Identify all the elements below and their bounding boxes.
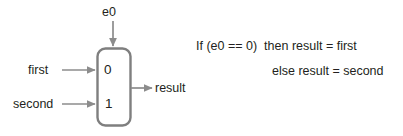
expression-line-else: else result = second	[272, 65, 384, 78]
mux-box	[98, 49, 131, 126]
output-label-result: result	[155, 82, 186, 95]
mux-port-digit-zero: 0	[104, 63, 112, 77]
diagram-canvas: e0 first second result 0 1 If (e0 == 0) …	[0, 0, 403, 136]
select-label-e0: e0	[102, 6, 116, 19]
input-label-first: first	[28, 64, 48, 77]
input-label-second: second	[13, 98, 53, 111]
expression-line-if: If (e0 == 0) then result = first	[196, 40, 357, 53]
mux-port-digit-one: 1	[105, 97, 113, 111]
